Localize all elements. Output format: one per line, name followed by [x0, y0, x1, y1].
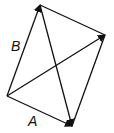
- label-a: A: [27, 113, 37, 129]
- vector-difference-diagonal: [40, 5, 72, 126]
- label-b: B: [11, 38, 20, 54]
- edge-right: [72, 35, 105, 126]
- edge-top: [40, 5, 105, 35]
- vector-diagram: B A: [0, 0, 114, 133]
- vector-a: [7, 96, 72, 126]
